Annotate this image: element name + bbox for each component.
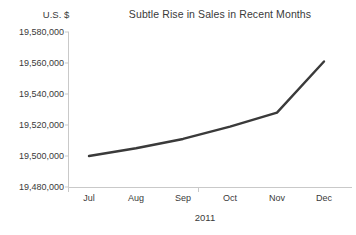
x-tick-mark [68, 188, 69, 192]
x-tick-label: Dec [304, 193, 344, 203]
x-tick-label: Jul [69, 193, 109, 203]
y-tick-label: 19,540,000 [2, 89, 64, 99]
x-tick-label: Sep [163, 193, 203, 203]
y-axis-ticks: 19,580,00019,560,00019,540,00019,520,000… [0, 0, 64, 235]
x-axis-line [68, 187, 352, 188]
line-chart: Subtle Rise in Sales in Recent Months U.… [0, 0, 356, 235]
y-axis-line [68, 32, 69, 188]
y-tick-label: 19,480,000 [2, 182, 64, 192]
y-tick-mark [65, 125, 69, 126]
y-tick-mark [65, 63, 69, 64]
y-tick-label: 19,580,000 [2, 27, 64, 37]
y-tick-label: 19,500,000 [2, 151, 64, 161]
x-tick-mark [198, 188, 199, 192]
y-tick-mark [65, 32, 69, 33]
y-tick-label: 19,520,000 [2, 120, 64, 130]
chart-title: Subtle Rise in Sales in Recent Months [100, 8, 340, 20]
y-tick-mark [65, 94, 69, 95]
x-tick-label: Nov [257, 193, 297, 203]
y-tick-label: 19,560,000 [2, 58, 64, 68]
x-axis-title: 2011 [175, 212, 235, 223]
series-line-sales [89, 61, 324, 156]
x-tick-label: Aug [116, 193, 156, 203]
x-tick-label: Oct [210, 193, 250, 203]
y-tick-mark [65, 156, 69, 157]
